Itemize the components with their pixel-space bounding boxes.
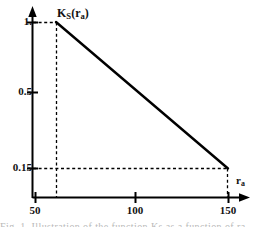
- x-axis-arrowhead: [239, 193, 250, 202]
- y-tick-label-1: 1.: [24, 16, 32, 27]
- x-axis-title: ra: [236, 175, 245, 188]
- y-tick-label-0p15: 0.15: [13, 162, 32, 173]
- x-tick-label-150: 150: [220, 205, 237, 216]
- caption-fragment: Fig. 1. Illustration of the function Ks …: [0, 221, 258, 227]
- curve-label-k: K: [57, 6, 66, 20]
- ks-ra-figure: 1. 0.5 0.15 50 100 150 KS(ra) ra Fig. 1.…: [0, 0, 258, 227]
- curve-label: KS(ra): [57, 7, 89, 21]
- curve-label-close-paren: ): [85, 6, 89, 20]
- x-tick-label-50: 50: [30, 205, 41, 216]
- plot-canvas: [0, 0, 258, 227]
- x-tick-label-100: 100: [127, 205, 144, 216]
- ks-curve: [56, 22, 228, 169]
- x-axis-title-sub-a: a: [241, 179, 245, 188]
- y-tick-label-0p5: 0.5: [18, 86, 32, 97]
